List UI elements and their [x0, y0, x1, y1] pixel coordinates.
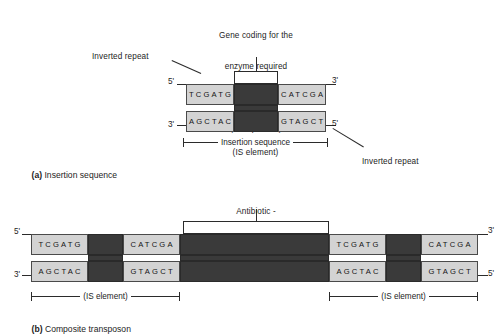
panel-a-gene-label-line-1: Gene coding for the	[196, 31, 316, 41]
panel-a-top-right-prime: 3'	[332, 76, 338, 85]
panel-b-top-segment-2	[88, 234, 123, 255]
panel-b-flank-bottom-right	[478, 275, 488, 276]
panel-b-bottom-segment-2	[88, 261, 123, 282]
panel-b-top-right-prime: 3'	[488, 226, 494, 235]
panel-b-measure-left-rule-left	[32, 296, 80, 297]
panel-a-gene-stem	[256, 57, 257, 72]
panel-b-gene-stem	[256, 209, 257, 221]
panel-a-gene-bracket	[234, 71, 278, 84]
panel-a-top-right-repeat: CATCGA	[278, 84, 326, 105]
panel-b-top-left-prime: 5'	[14, 227, 20, 236]
panel-b-top-segment-4-resistance-gene	[180, 234, 329, 255]
panel-a-measure: Insertion sequence (IS element)	[183, 138, 328, 158]
panel-a-measure-rule-left	[184, 142, 218, 143]
panel-a-measure-label-line-2: (IS element)	[183, 148, 328, 158]
figure-root: Gene coding for the enzyme required for …	[0, 0, 504, 334]
panel-b-top-segment-7: CATCGA	[421, 234, 478, 255]
panel-a-inverted-repeat-right-leader	[333, 128, 364, 147]
panel-a-measure-label-line-1: Insertion sequence	[218, 138, 293, 147]
panel-b-gene-bracket	[183, 221, 329, 234]
panel-b-bottom-segment-1: AGCTAC	[31, 261, 88, 282]
panel-b-caption-marker: (b)	[32, 324, 43, 334]
panel-a-measure-rule-right	[293, 142, 327, 143]
panel-a-flank-top-left	[177, 84, 186, 85]
panel-b-top-segment-5: TCGATG	[329, 234, 386, 255]
panel-b-top-segment-1: TCGATG	[31, 234, 88, 255]
panel-a-top-left-prime: 5'	[168, 77, 174, 86]
panel-b-measure-right-rule-right	[429, 296, 477, 297]
panel-a-bottom-right-repeat: GTAGCT	[278, 111, 326, 132]
panel-b-bottom-right-prime: 5'	[488, 269, 494, 278]
panel-b-flank-top-right	[478, 234, 488, 235]
panel-b-bottom-segment-6	[386, 261, 421, 282]
panel-b-measure-left-cap-right	[179, 292, 180, 301]
panel-b-caption: (b) Composite transposon	[22, 314, 131, 334]
panel-b-measure-right: (IS element)	[329, 292, 478, 301]
panel-b-measure-right-cap-right	[477, 292, 478, 301]
panel-b-caption-text: Composite transposon	[45, 324, 131, 334]
panel-a-caption: (a) Insertion sequence	[22, 160, 117, 190]
panel-b-flank-top-left	[22, 234, 31, 235]
panel-b-measure-right-label: (IS element)	[378, 292, 429, 301]
panel-a-measure-cap-right	[327, 138, 328, 147]
panel-b-measure-right-rule-left	[330, 296, 378, 297]
panel-a-top-center-gene	[234, 84, 278, 105]
panel-b-bottom-left-prime: 3'	[14, 270, 20, 279]
panel-a-inverted-repeat-right-label: Inverted repeat	[362, 157, 419, 167]
panel-a-bottom-left-repeat: AGCTAC	[186, 111, 234, 132]
panel-b-top-segment-3: CATCGA	[123, 234, 180, 255]
panel-b-bottom-segment-5: AGCTAC	[329, 261, 386, 282]
panel-a-flank-bottom-left	[177, 125, 186, 126]
panel-b-flank-bottom-left	[22, 275, 31, 276]
panel-b-measure-left-rule-right	[131, 296, 179, 297]
panel-b-measure-left: (IS element)	[31, 292, 180, 301]
panel-a-caption-marker: (a)	[32, 170, 43, 180]
panel-a-bottom-left-prime: 3'	[168, 120, 174, 129]
panel-b-bottom-segment-3: GTAGCT	[123, 261, 180, 282]
panel-b-bottom-segment-4-resistance-gene	[180, 261, 329, 282]
panel-a-top-left-repeat: TCGATG	[186, 84, 234, 105]
panel-b-top-segment-6	[386, 234, 421, 255]
panel-a-bottom-center-gene	[234, 111, 278, 132]
panel-a-inverted-repeat-left-label: Inverted repeat	[92, 52, 149, 62]
panel-b-bottom-segment-7: GTAGCT	[421, 261, 478, 282]
panel-a-caption-text: Insertion sequence	[44, 170, 117, 180]
panel-a-bottom-right-prime: 5'	[332, 119, 338, 128]
panel-b-measure-left-label: (IS element)	[80, 292, 131, 301]
